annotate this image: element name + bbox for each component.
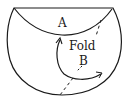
- fold-diagram: A Fold B: [0, 0, 128, 104]
- dashed-fold-line-lower: [60, 78, 73, 95]
- label-fold: Fold: [69, 39, 96, 53]
- dashed-fold-line-upper: [96, 20, 101, 36]
- diagram-svg: A Fold B: [0, 0, 128, 104]
- label-a: A: [57, 16, 67, 30]
- label-b: B: [79, 54, 88, 68]
